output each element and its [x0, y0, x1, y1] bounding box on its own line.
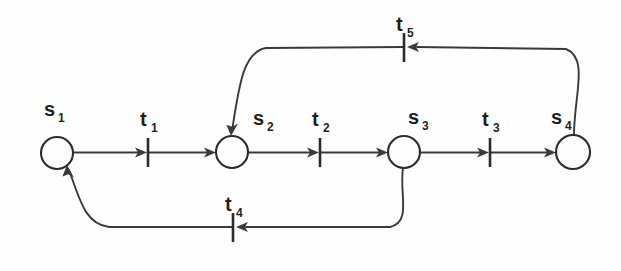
place-label-s3-sub: 3	[422, 119, 429, 133]
place-label-s1-base: s	[44, 98, 55, 120]
transition-label-t2-sub: 2	[323, 121, 330, 135]
place-label-s3-base: s	[408, 106, 419, 128]
transition-label-t4-base: t	[225, 193, 232, 215]
place-circle-s4[interactable]	[556, 135, 590, 169]
place-label-s4-sub: 4	[565, 119, 572, 133]
place-circle-s3[interactable]	[388, 136, 420, 168]
transition-label-t1-base: t	[140, 108, 147, 130]
petri-net-canvas: s 1 s 2 s 3 s 4 t 1 t 2 t 3 t	[0, 0, 621, 271]
place-label-s4-base: s	[551, 106, 562, 128]
transition-label-t5-base: t	[396, 13, 403, 35]
place-circle-s2[interactable]	[216, 136, 248, 168]
place-circle-s1[interactable]	[41, 137, 73, 169]
transition-label-t4-sub: 4	[236, 206, 243, 220]
transition-label-t3-base: t	[482, 108, 489, 130]
transition-label-t5-sub: 5	[407, 26, 414, 40]
transition-label-t3-sub: 3	[493, 121, 500, 135]
diagram-background	[0, 0, 621, 271]
transition-label-t1-sub: 1	[151, 121, 158, 135]
transition-label-t2-base: t	[312, 108, 319, 130]
petri-net-diagram: s 1 s 2 s 3 s 4 t 1 t 2 t 3 t	[0, 0, 621, 271]
place-label-s2-base: s	[253, 107, 264, 129]
place-label-s2-sub: 2	[267, 120, 274, 134]
place-label-s1-sub: 1	[58, 111, 65, 125]
